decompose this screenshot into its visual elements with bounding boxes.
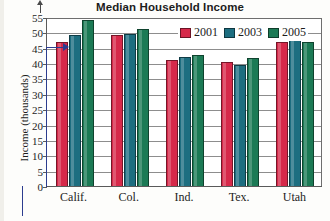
x-tick-label-col: Col.	[101, 190, 156, 205]
legend-swatch-2001	[180, 28, 191, 38]
y-tick-label: 20	[32, 120, 43, 132]
bar-highlight	[291, 36, 294, 186]
legend-item-2001: 2001	[180, 25, 218, 40]
bar-highlight	[71, 36, 74, 186]
bar-highlight	[139, 30, 142, 186]
plot-inner: 0510152025303540455055	[47, 18, 322, 186]
bar-utah-2003	[289, 35, 301, 186]
bar-calif-2005	[82, 20, 94, 186]
bar-highlight	[126, 35, 129, 186]
bar-highlight	[113, 36, 116, 186]
legend-swatch-2003	[224, 28, 235, 38]
legend-item-2005: 2005	[268, 25, 306, 40]
bar-tex-2005	[247, 58, 259, 186]
bar-ind-2005	[192, 55, 204, 186]
bar-group	[268, 18, 323, 186]
bar-highlight	[278, 43, 281, 186]
callout-bracket	[46, 47, 66, 187]
bar-utah-2005	[302, 42, 314, 186]
plot-area: 0510152025303540455055	[46, 18, 322, 187]
legend-item-2003: 2003	[224, 25, 262, 40]
bar-utah-2001	[276, 42, 288, 186]
x-tick-label-tex: Tex.	[212, 190, 267, 205]
y-tick-mark	[43, 187, 47, 188]
callout-arrow-icon	[63, 43, 69, 51]
bar-tex-2001	[221, 62, 233, 186]
bar-group	[213, 18, 268, 186]
bar-highlight	[84, 21, 87, 186]
bar-highlight	[168, 61, 171, 186]
y-tick-label: 25	[32, 104, 43, 116]
legend: 200120032005	[178, 24, 308, 41]
bar-chart: Median Household Income Income (thousand…	[0, 0, 330, 221]
bar-highlight	[304, 43, 307, 186]
legend-swatch-2005	[268, 28, 279, 38]
bar-highlight	[223, 63, 226, 186]
legend-label-2001: 2001	[194, 25, 218, 40]
bar-tex-2003	[234, 65, 246, 186]
bar-group	[157, 18, 212, 186]
y-tick-label: 35	[32, 73, 43, 85]
legend-label-2003: 2003	[238, 25, 262, 40]
bar-highlight	[236, 66, 239, 186]
bar-ind-2001	[166, 60, 178, 186]
y-tick-label: 15	[32, 135, 43, 147]
bar-highlight	[194, 56, 197, 186]
bar-col-2003	[124, 34, 136, 186]
y-tick-label: 10	[32, 150, 43, 162]
x-tick-label-calif: Calif.	[46, 190, 101, 205]
bar-highlight	[181, 58, 184, 186]
bar-highlight	[249, 59, 252, 186]
x-tick-label-utah: Utah	[267, 190, 322, 205]
y-tick-label: 50	[32, 27, 43, 39]
bar-ind-2003	[179, 57, 191, 186]
y-axis-label: Income (thousands)	[18, 48, 30, 188]
bar-col-2001	[111, 35, 123, 186]
callout-vertical-line	[22, 186, 23, 216]
y-tick-label: 45	[32, 43, 43, 55]
bar-col-2005	[137, 29, 149, 186]
x-tick-label-ind: Ind.	[156, 190, 211, 205]
y-tick-label: 55	[32, 12, 43, 24]
bar-calif-2003	[69, 35, 81, 186]
legend-label-2005: 2005	[282, 25, 306, 40]
y-tick-label: 30	[32, 89, 43, 101]
y-tick-label: 40	[32, 58, 43, 70]
bar-group	[102, 18, 157, 186]
page-edge	[0, 0, 4, 221]
chart-title: Median Household Income	[55, 1, 285, 13]
